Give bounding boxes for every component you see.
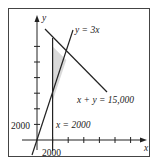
x-axis-label: x [143,143,149,153]
y-tick-label-2000: 2000 [11,121,30,131]
shaded-feasible-region [53,46,67,101]
y-axis-label: y [41,13,47,23]
feasible-region-graph: y x y = 3x x + y = 15,000 x = 2000 2000 … [0,0,156,166]
x-tick-label-2000: 2000 [42,148,61,158]
y-axis-arrow-icon [35,15,40,22]
label-x-plus-y-15000: x + y = 15,000 [76,95,134,105]
label-x-equals-2000: x = 2000 [55,120,91,130]
label-y-equals-3x: y = 3x [74,25,100,35]
x-axis-arrow-icon [140,138,147,143]
